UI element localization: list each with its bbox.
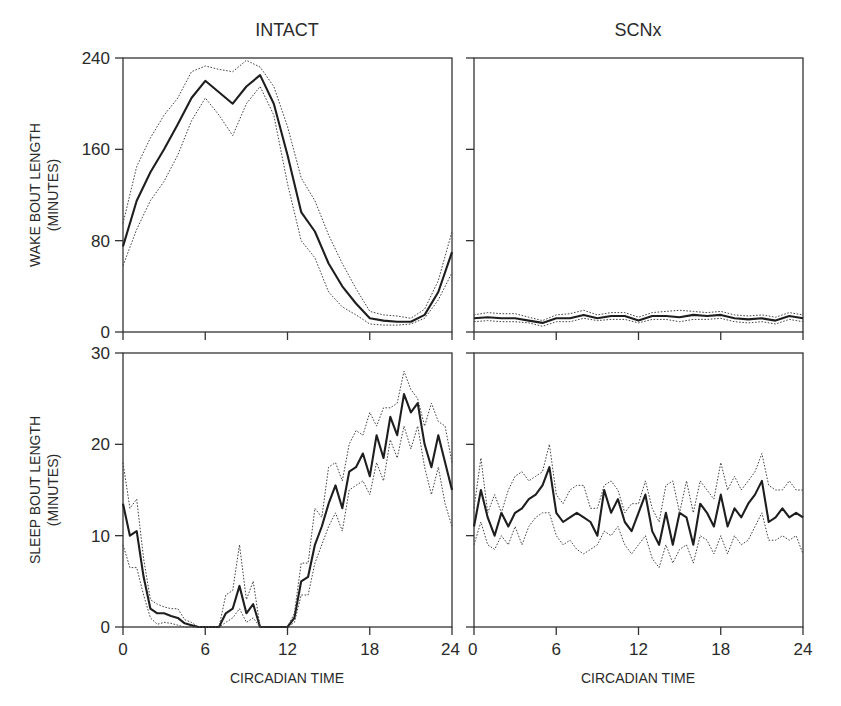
series-lower-line <box>474 513 803 568</box>
x-tick-label: 18 <box>711 640 730 659</box>
y-tick-label: 160 <box>82 140 110 159</box>
column-title-scnx: SCNx <box>614 20 661 40</box>
y-axis-label-sleep: SLEEP BOUT LENGTH (MINUTES) <box>27 416 61 564</box>
plot-frame <box>474 353 803 627</box>
y-tick-label: 0 <box>101 618 110 637</box>
x-tick-label: 18 <box>360 640 379 659</box>
series-lower-line <box>123 426 452 627</box>
x-tick-label: 12 <box>629 640 648 659</box>
series-mean-line <box>474 467 803 545</box>
panel-sleep-scnx: 06121824 <box>466 353 812 659</box>
x-tick-label: 0 <box>118 640 127 659</box>
series-upper-line <box>123 371 452 627</box>
figure: INTACT SCNx WAKE BOUT LENGTH (MINUTES) S… <box>0 0 841 706</box>
y-axis-label-sleep-line2: (MINUTES) <box>45 454 61 526</box>
y-axis-label-wake-line1: WAKE BOUT LENGTH <box>27 123 43 267</box>
panel-wake-intact: 080160240 <box>82 49 452 342</box>
y-axis-label-sleep-line1: SLEEP BOUT LENGTH <box>27 416 43 564</box>
panel-wake-scnx <box>466 58 803 340</box>
y-axis-label-wake: WAKE BOUT LENGTH (MINUTES) <box>27 123 61 267</box>
plot-frame <box>474 58 803 332</box>
series-mean-line <box>123 75 452 322</box>
plot-frame <box>123 353 452 627</box>
series-lower-line <box>123 87 452 326</box>
y-tick-label: 30 <box>91 344 110 363</box>
y-axis-label-wake-line2: (MINUTES) <box>45 159 61 231</box>
panel-sleep-intact: 010203006121824 <box>91 344 460 659</box>
y-tick-label: 80 <box>91 232 110 251</box>
series-mean-line <box>474 315 803 323</box>
x-tick-label: 0 <box>468 640 477 659</box>
column-title-intact: INTACT <box>255 20 319 40</box>
x-tick-label: 24 <box>441 640 460 659</box>
series-upper-line <box>123 60 452 318</box>
y-tick-label: 240 <box>82 49 110 68</box>
y-tick-label: 10 <box>91 527 110 546</box>
plot-frame <box>123 58 452 332</box>
series-mean-line <box>123 394 452 627</box>
x-tick-label: 24 <box>794 640 813 659</box>
x-tick-label: 6 <box>201 640 210 659</box>
x-axis-label-left: CIRCADIAN TIME <box>230 670 344 686</box>
x-axis-label-right: CIRCADIAN TIME <box>581 670 695 686</box>
y-tick-label: 20 <box>91 435 110 454</box>
figure-canvas: INTACT SCNx WAKE BOUT LENGTH (MINUTES) S… <box>0 0 841 706</box>
y-tick-label: 0 <box>101 323 110 342</box>
x-tick-label: 6 <box>552 640 561 659</box>
x-tick-label: 12 <box>278 640 297 659</box>
